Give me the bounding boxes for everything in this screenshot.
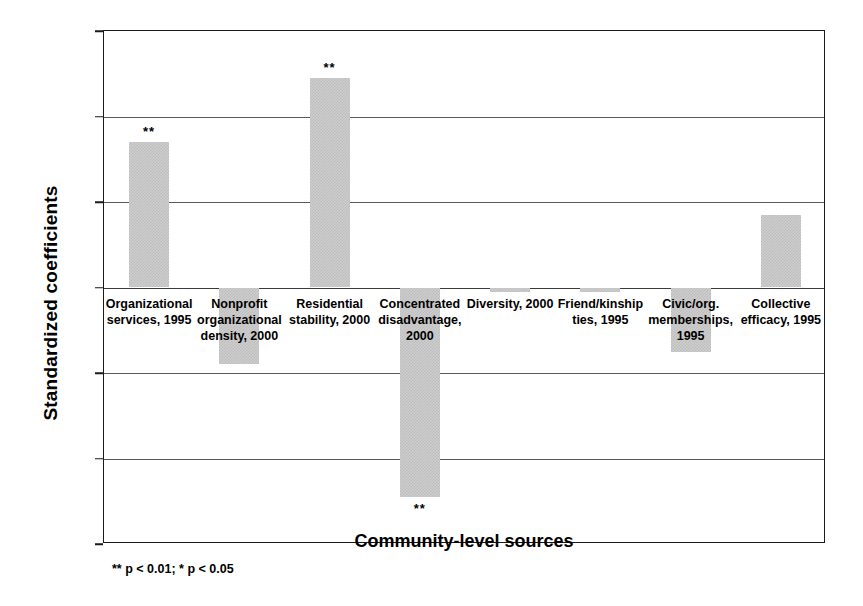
category-label: Diversity, 2000 [458,296,562,312]
bar[interactable] [761,215,801,288]
category-label: Friend/kinship ties, 1995 [548,296,652,328]
plot-area: **Organizational services, 1995Nonprofit… [103,30,825,543]
bar-slot: Collective efficacy, 1995 [736,31,826,542]
category-label: Concentrated disadvantage, 2000 [368,296,472,344]
y-tick-mark [95,30,103,32]
bar-slot: Nonprofit organizational density, 2000 [194,31,284,542]
bar-slot: **Organizational services, 1995 [104,31,194,542]
category-label: Collective efficacy, 1995 [729,296,833,328]
bar-slot: Diversity, 2000 [465,31,555,542]
category-label: Nonprofit organizational density, 2000 [187,296,291,344]
y-tick-mark [95,458,103,460]
y-tick-mark [95,201,103,203]
category-label: Civic/org. memberships, 1995 [639,296,743,344]
bar[interactable] [490,288,530,292]
bar-series: **Organizational services, 1995Nonprofit… [104,31,824,542]
significance-marker: ** [143,125,155,138]
significance-marker: ** [414,502,426,515]
bar[interactable] [310,78,350,287]
y-tick-mark [95,116,103,118]
bar[interactable] [580,288,620,292]
y-axis-title: Standardized coefficients [34,0,68,606]
y-tick-mark [95,372,103,374]
bar-slot: **Concentrated disadvantage, 2000 [375,31,465,542]
bar-slot: **Residential stability, 2000 [285,31,375,542]
significance-marker: ** [324,61,336,74]
x-axis-title: Community-level sources [103,531,825,552]
category-label: Residential stability, 2000 [278,296,382,328]
bar-slot: Friend/kinship ties, 1995 [555,31,645,542]
y-tick-mark [95,543,103,545]
category-label: Organizational services, 1995 [97,296,201,328]
significance-footnote: ** p < 0.01; * p < 0.05 [112,562,234,576]
bar[interactable] [129,142,169,287]
y-tick-mark [95,287,103,289]
bar-slot: Civic/org. memberships, 1995 [646,31,736,542]
